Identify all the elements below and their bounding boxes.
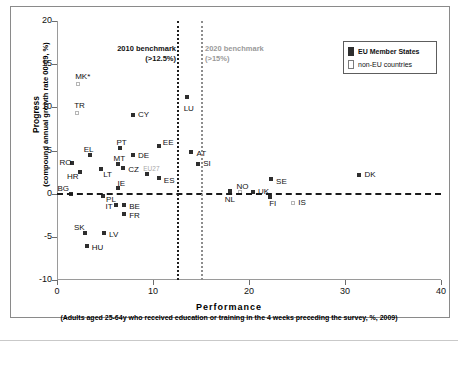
- data-label-IT: IT: [106, 203, 113, 211]
- benchmark-2020-label-line1: 2020 benchmark: [205, 44, 264, 53]
- zero-reference-line: [57, 193, 441, 195]
- data-label-NO: NO: [236, 183, 248, 191]
- data-point-IS: [291, 201, 295, 205]
- x-axis-title-sub: (Adults aged 25-64y who received educati…: [0, 314, 458, 321]
- data-label-MT: MT: [114, 155, 126, 163]
- data-label-RO: RO: [59, 159, 71, 167]
- data-label-BE: BE: [129, 203, 140, 211]
- data-label-LT: LT: [103, 171, 112, 179]
- x-tick-label-30: 30: [330, 287, 360, 296]
- x-tick-20: [249, 280, 250, 285]
- data-label-HU: HU: [92, 244, 104, 252]
- y-axis-title: Progress (compound annual growth rate 00…: [31, 25, 50, 205]
- data-label-SK: SK: [74, 224, 85, 232]
- x-axis-title-main: Performance: [0, 302, 458, 312]
- data-label-PT: PT: [116, 139, 126, 147]
- data-label-IE: IE: [117, 180, 125, 188]
- scatter-chart-figure: 20151050-5-10 CYLUEEATPTDEELSIMTROCZLTHR…: [0, 0, 458, 372]
- data-point-IT: [114, 203, 118, 207]
- legend: EU Member States non-EU countries: [343, 41, 437, 74]
- legend-item-non-eu: non-EU countries: [348, 58, 432, 71]
- data-point-AT: [189, 150, 193, 154]
- data-label-LU: LU: [184, 105, 194, 113]
- data-point-DK: [357, 173, 361, 177]
- x-tick-label-0: 0: [42, 287, 72, 296]
- data-label-EL: EL: [84, 146, 94, 154]
- legend-label-non-eu: non-EU countries: [358, 61, 412, 69]
- data-label-DK: DK: [364, 171, 375, 179]
- data-point-CY: [131, 113, 135, 117]
- data-point-CZ: [121, 166, 125, 170]
- y-axis-title-sub: (compound annual growth rate 00-09, %): [41, 25, 50, 205]
- legend-item-eu: EU Member States: [348, 45, 432, 58]
- legend-label-eu: EU Member States: [358, 48, 419, 56]
- x-tick-30: [345, 280, 346, 285]
- data-point-LU: [185, 95, 189, 99]
- x-tick-label-40: 40: [426, 287, 456, 296]
- data-point-BE: [122, 203, 126, 207]
- data-label-MK: MK*: [75, 73, 90, 81]
- data-label-EU27: EU27: [143, 165, 159, 173]
- data-point-FR: [122, 212, 126, 216]
- x-tick-0: [57, 280, 58, 285]
- data-label-TR: TR: [74, 102, 85, 110]
- data-label-NL: NL: [225, 196, 235, 204]
- y-axis-title-main: Progress: [31, 25, 41, 205]
- data-label-IS: IS: [298, 199, 306, 207]
- data-point-TR: [75, 111, 79, 115]
- data-point-SE: [269, 177, 273, 181]
- data-label-CZ: CZ: [128, 166, 139, 174]
- benchmark-line-2010: [177, 21, 179, 280]
- data-point-ES: [157, 176, 161, 180]
- data-label-LV: LV: [109, 231, 118, 239]
- benchmark-2010-label: 2010 benchmark (>12.5%): [84, 44, 176, 64]
- data-point-HU: [85, 244, 89, 248]
- data-label-CY: CY: [138, 111, 149, 119]
- data-point-DE: [131, 153, 135, 157]
- benchmark-line-2020: [201, 21, 203, 280]
- data-label-DE: DE: [138, 152, 149, 160]
- x-tick-label-10: 10: [138, 287, 168, 296]
- data-point-MK: [76, 82, 80, 86]
- x-axis-title: Performance (Adults aged 25-64y who rece…: [0, 302, 458, 321]
- data-label-FR: FR: [129, 212, 140, 220]
- data-label-EE: EE: [163, 139, 174, 147]
- x-tick-40: [441, 280, 442, 285]
- data-label-FI: FI: [269, 200, 276, 208]
- legend-swatch-eu-icon: [348, 47, 354, 56]
- x-tick-10: [153, 280, 154, 285]
- legend-swatch-non-eu-icon: [348, 60, 354, 69]
- data-point-SI: [196, 162, 200, 166]
- x-tick-label-20: 20: [234, 287, 264, 296]
- data-label-SI: SI: [203, 160, 211, 168]
- benchmark-2020-label-line2: (>15%): [205, 54, 229, 63]
- data-label-BG: BG: [57, 185, 69, 193]
- bottom-divider: [0, 340, 458, 341]
- data-label-HR: HR: [67, 173, 79, 181]
- benchmark-2010-label-line1: 2010 benchmark: [117, 44, 176, 53]
- benchmark-2010-label-line2: (>12.5%): [145, 54, 176, 63]
- data-point-LV: [102, 231, 106, 235]
- benchmark-2020-label: 2020 benchmark (>15%): [205, 44, 285, 64]
- data-label-ES: ES: [164, 177, 175, 185]
- data-label-SE: SE: [276, 178, 287, 186]
- data-point-EE: [157, 144, 161, 148]
